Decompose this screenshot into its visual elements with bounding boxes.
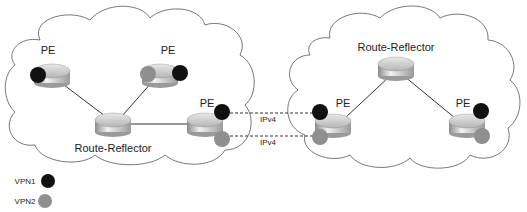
legend-label-vpn1: VPN1 xyxy=(15,177,36,186)
router-label-pe: PE xyxy=(41,44,56,56)
link-label-ipv4: IPv4 xyxy=(260,115,276,124)
router-label-pe: PE xyxy=(336,97,351,109)
router-label-pe: PE xyxy=(200,97,215,109)
link-label-ipv4: IPv4 xyxy=(260,138,276,147)
router-label-route-reflector: Route-Reflector xyxy=(357,41,434,53)
router-label-pe: PE xyxy=(161,44,176,56)
router-label-route-reflector: Route-Reflector xyxy=(74,142,151,154)
router-label-pe: PE xyxy=(456,97,471,109)
diagram-graphics xyxy=(0,0,527,212)
network-diagram: PE PE Route-Reflector PE Route-Reflector… xyxy=(0,0,527,212)
legend-label-vpn2: VPN2 xyxy=(15,197,36,206)
